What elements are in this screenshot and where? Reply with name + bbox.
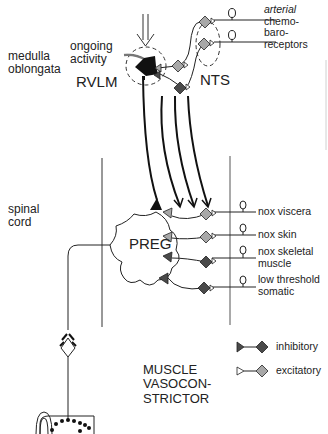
afferent-line: nox skin: [258, 229, 297, 241]
blood-vessel: [36, 412, 94, 434]
receptor-endings: [229, 9, 236, 43]
afferent-line: muscle: [258, 258, 313, 270]
ganglion-synapse: [60, 334, 76, 420]
legend-inhibitory-label: inhibitory: [276, 341, 318, 353]
afferent-label-nox-viscera: nox viscera: [258, 206, 311, 218]
preg-label: PREG: [129, 236, 172, 253]
muscle-vasoconstrictor-diagram: medulla oblongata ongoing activity RVLM …: [0, 0, 328, 434]
pathway-title: MUSCLE VASOCON- STRICTOR: [143, 363, 211, 406]
activity-line: activity: [70, 53, 113, 66]
descending-input-arrow: [137, 14, 154, 46]
rvlm-synapse: [150, 198, 162, 210]
title-line-2: VASOCON-: [143, 377, 211, 391]
arterial-receptors-label: arterial chemo- baro- receptors: [264, 4, 308, 50]
legend-excitatory-symbol: [237, 365, 268, 377]
rvlm-descending-axon: [143, 76, 157, 200]
afferent-label-nox-skeletal-muscle: nox skeletal muscle: [258, 246, 313, 269]
rvlm-label: RVLM: [76, 74, 117, 91]
ongoing-activity-label: ongoing activity: [70, 40, 113, 66]
rvlm-neuron: [135, 56, 158, 76]
afferent-line: low threshold: [258, 274, 320, 286]
afferent-line: nox viscera: [258, 206, 311, 218]
descending-arrows: [161, 96, 208, 206]
afferent-line: somatic: [258, 286, 320, 298]
afferent-label-low-threshold-somatic: low threshold somatic: [258, 274, 320, 297]
receptors-line: receptors: [264, 39, 308, 51]
cord-line: cord: [8, 216, 39, 229]
baro-line: baro-: [264, 27, 308, 39]
nts-label: NTS: [200, 72, 230, 89]
afferent-line: nox skeletal: [258, 246, 313, 258]
region-label-medulla: medulla oblongata: [8, 50, 61, 76]
afferent-label-nox-skin: nox skin: [258, 229, 297, 241]
legend-excitatory-label: excitatory: [276, 365, 321, 377]
legend-inhibitory-symbol: [237, 341, 268, 353]
arterial-line: arterial: [264, 4, 308, 16]
preg-axon: [68, 245, 110, 330]
oblongata-line: oblongata: [8, 63, 61, 76]
title-line-3: STRICTOR: [143, 392, 211, 406]
primary-afferents: [212, 201, 256, 287]
region-label-spinal-cord: spinal cord: [8, 203, 39, 229]
title-line-1: MUSCLE: [143, 363, 211, 377]
rvlm-input-fibre: [124, 55, 146, 60]
